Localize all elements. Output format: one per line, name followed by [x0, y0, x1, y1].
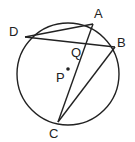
- segment-db: [25, 37, 115, 47]
- label-c: C: [49, 126, 58, 141]
- label-p: P: [56, 70, 65, 85]
- label-b: B: [117, 35, 126, 50]
- label-d: D: [9, 24, 18, 39]
- center-point: [66, 67, 70, 71]
- geometry-diagram: A B C D Q P: [0, 0, 135, 142]
- segment-bc: [58, 47, 115, 122]
- label-a: A: [94, 6, 103, 21]
- segment-da: [25, 24, 93, 37]
- label-q: Q: [71, 45, 81, 60]
